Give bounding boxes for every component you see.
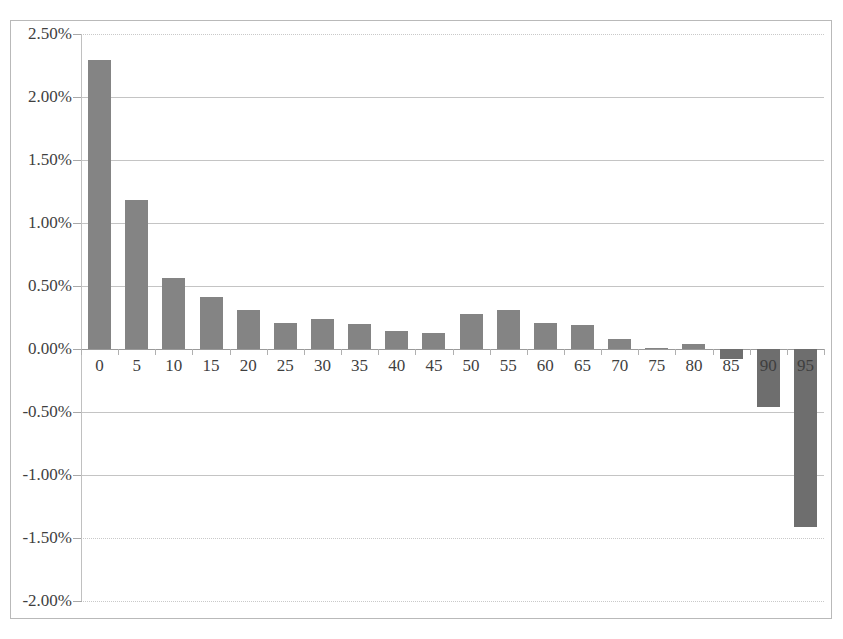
x-axis-tick-label: 90 [750,356,787,376]
y-axis-tick-label: 1.00% [28,214,72,231]
x-axis-tick [675,349,676,355]
x-axis-tick-label: 65 [564,356,601,376]
y-axis-tick-label: -2.00% [22,592,72,609]
x-axis-tick [341,349,342,355]
y-axis-tick-label: -0.50% [22,403,72,420]
x-axis-tick [750,349,751,355]
x-axis-tick-label: 95 [787,356,824,376]
x-axis-tick-label: 55 [490,356,527,376]
x-axis-tick [378,349,379,355]
y-axis-tick-label: 0.00% [28,340,72,357]
bar [348,324,371,349]
x-axis-tick [304,349,305,355]
bar [311,319,334,349]
bar [200,297,223,349]
x-axis-tick-label: 45 [415,356,452,376]
x-axis-tick-label: 75 [638,356,675,376]
y-axis-tick-label: 2.50% [28,25,72,42]
gridline [81,601,824,602]
bar [608,339,631,349]
x-axis-tick-label: 20 [230,356,267,376]
x-axis-tick [527,349,528,355]
y-axis-tick-label: -1.00% [22,466,72,483]
x-axis-tick-label: 10 [155,356,192,376]
bar [385,331,408,349]
bar [237,310,260,349]
x-axis-tick [787,349,788,355]
x-axis-tick [192,349,193,355]
y-axis-tick-label: 2.00% [28,88,72,105]
x-axis-tick [564,349,565,355]
x-axis-tick-label: 35 [341,356,378,376]
x-axis-tick [415,349,416,355]
bar [88,60,111,349]
bar [162,278,185,349]
x-axis-tick [638,349,639,355]
bar [460,314,483,349]
bar [497,310,520,349]
bar [422,333,445,349]
y-axis-tick [73,601,82,602]
bar [645,348,668,349]
x-axis-tick [267,349,268,355]
y-axis-tick-label: 1.50% [28,151,72,168]
x-axis-tick-label: 80 [675,356,712,376]
x-axis-tick-label: 15 [192,356,229,376]
x-axis-tick [118,349,119,355]
plot-area [81,34,824,601]
bar-chart: 2.50%2.00%1.50%1.00%0.50%0.00%-0.50%-1.0… [0,0,843,639]
x-axis-tick-label: 40 [378,356,415,376]
x-axis-tick-label: 70 [601,356,638,376]
bar [534,323,557,349]
x-axis-tick-label: 25 [267,356,304,376]
x-axis-tick [155,349,156,355]
x-axis-tick [490,349,491,355]
x-axis-tick [230,349,231,355]
x-axis-tick [81,349,82,355]
x-axis-tick-label: 60 [527,356,564,376]
y-axis-tick-label: 0.50% [28,277,72,294]
x-axis-tick [601,349,602,355]
x-axis-tick [713,349,714,355]
x-axis-tick [824,349,825,355]
x-axis-tick-label: 30 [304,356,341,376]
bar [125,200,148,349]
y-axis-tick-label: -1.50% [22,529,72,546]
x-axis-tick-label: 50 [453,356,490,376]
bar [571,325,594,349]
x-axis-tick [453,349,454,355]
bar [682,344,705,349]
x-axis-tick-label: 5 [118,356,155,376]
y-axis-labels: 2.50%2.00%1.50%1.00%0.50%0.00%-0.50%-1.0… [14,0,72,639]
x-axis-tick-label: 85 [713,356,750,376]
x-axis-tick-label: 0 [81,356,118,376]
bar [274,323,297,349]
